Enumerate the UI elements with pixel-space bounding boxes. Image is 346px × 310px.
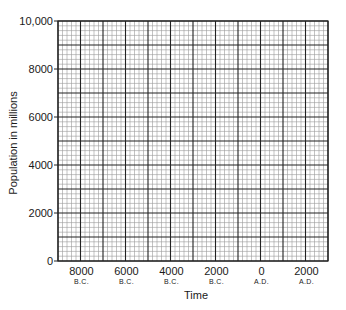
x-tick-label: 2000	[294, 265, 318, 277]
x-tick-label: 0	[258, 265, 264, 277]
y-tick-label: 10,000	[19, 15, 53, 27]
x-tick-era-label: B.C.	[74, 278, 89, 285]
population-chart: 0200040006000800010,000 8000B.C.6000B.C.…	[0, 0, 346, 310]
y-axis-title: Population in millions	[7, 91, 19, 195]
x-tick-era-label: B.C.	[209, 278, 224, 285]
x-tick-era-label: A.D.	[299, 278, 314, 285]
x-tick-label: 8000	[69, 265, 93, 277]
y-tick-label: 6000	[29, 111, 53, 123]
x-axis-title: Time	[184, 289, 208, 301]
x-tick-era-label: B.C.	[119, 278, 134, 285]
x-axis-ticks: 8000B.C.6000B.C.4000B.C.2000B.C.0A.D.200…	[69, 265, 318, 285]
x-tick-label: 2000	[204, 265, 228, 277]
y-tick-label: 2000	[29, 207, 53, 219]
y-axis-ticks: 0200040006000800010,000	[19, 15, 58, 267]
y-tick-label: 4000	[29, 159, 53, 171]
x-tick-label: 6000	[114, 265, 138, 277]
x-tick-era-label: A.D.	[254, 278, 269, 285]
y-tick-label: 8000	[29, 63, 53, 75]
x-tick-label: 4000	[159, 265, 183, 277]
y-tick-label: 0	[47, 255, 53, 267]
x-tick-era-label: B.C.	[164, 278, 179, 285]
